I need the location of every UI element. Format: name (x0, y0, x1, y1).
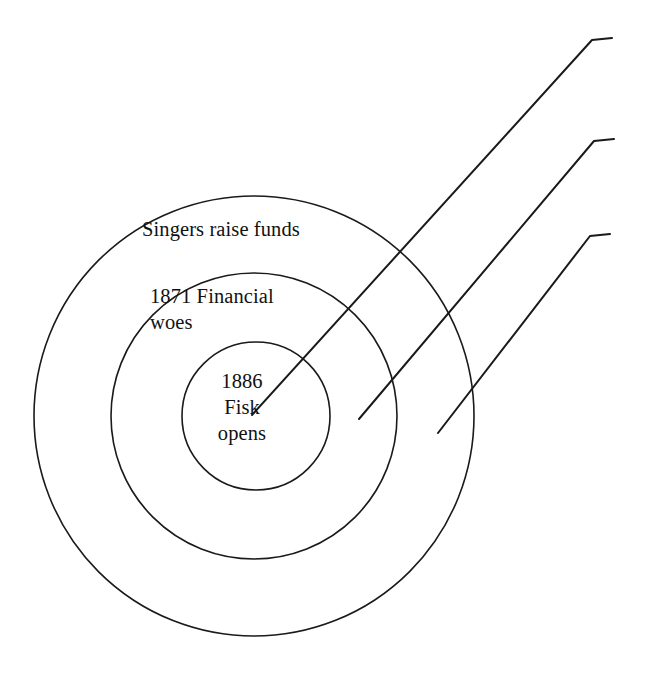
leader-line-middle[interactable] (359, 139, 614, 419)
middle-ring-label: 1871 Financial woes (150, 283, 274, 335)
leader-line-inner[interactable] (252, 38, 612, 415)
diagram-svg (0, 0, 647, 674)
outer-ring-label: Singers raise funds (142, 216, 300, 242)
diagram-canvas: Singers raise funds 1871 Financial woes … (0, 0, 647, 674)
inner-ring-label: 1886 Fisk opens (196, 368, 288, 447)
leader-line-outer[interactable] (438, 234, 610, 433)
